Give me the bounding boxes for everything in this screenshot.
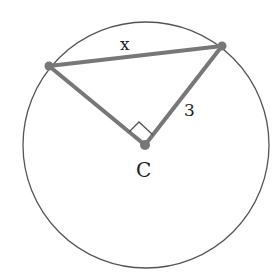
label-radius: 3 [184, 100, 195, 120]
point-right [218, 42, 227, 51]
circle-diagram: x 3 C [0, 0, 275, 278]
radius-left [49, 66, 145, 145]
radius-right [145, 46, 222, 145]
point-left [45, 62, 54, 71]
chord-x [49, 46, 222, 66]
label-chord: x [120, 34, 130, 54]
point-center [140, 140, 150, 150]
label-center: C [136, 158, 151, 182]
